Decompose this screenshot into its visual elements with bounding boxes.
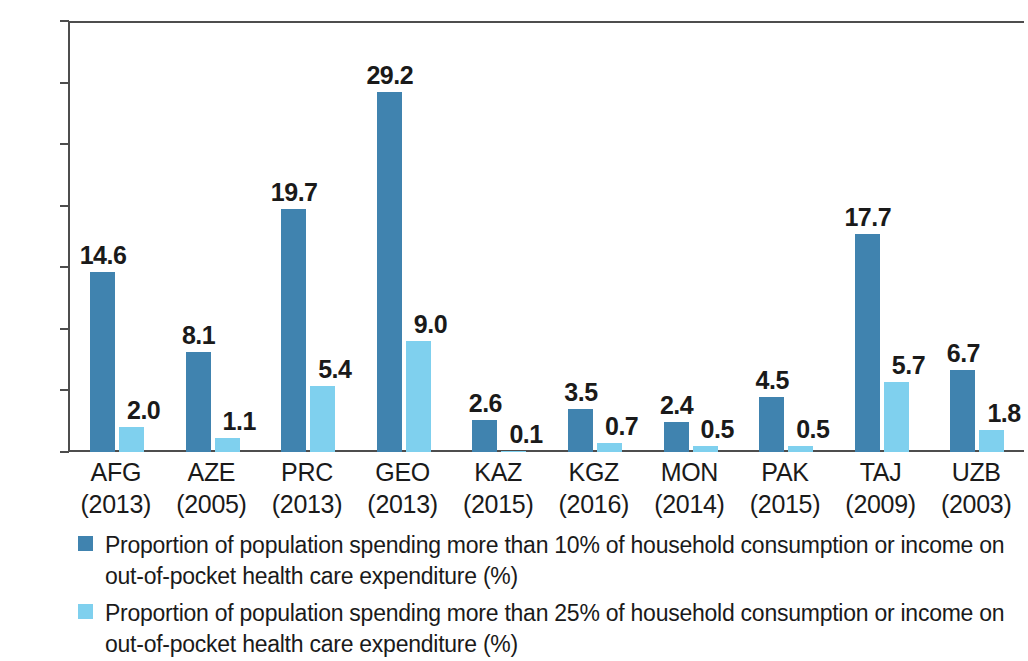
x-axis-category-label: KGZ(2016)	[544, 456, 644, 520]
x-axis-category-code: PAK	[735, 456, 835, 488]
bar-value-label: 8.1	[164, 321, 234, 350]
bar: 2.4	[664, 422, 689, 452]
bar: 8.1	[186, 352, 211, 452]
bar: 19.7	[281, 209, 306, 452]
bar: 0.7	[597, 443, 622, 452]
x-axis-category-year: (2014)	[639, 488, 739, 520]
x-axis-category-label: PRC(2013)	[257, 456, 357, 520]
x-axis-category-code: UZB	[926, 456, 1026, 488]
legend-label-series-2-line2: out-of-pocket health care expenditure (%…	[105, 631, 518, 657]
x-axis-category-year: (2016)	[544, 488, 644, 520]
bar-value-label: 1.8	[987, 399, 1028, 428]
bar-group: 2.60.1	[450, 21, 540, 452]
bar-group: 19.75.4	[259, 21, 349, 452]
bar: 1.8	[979, 430, 1004, 452]
x-axis-category-label: UZB(2003)	[926, 456, 1026, 520]
legend-swatch-icon-series-2	[78, 604, 93, 619]
x-axis-category-year: (2003)	[926, 488, 1026, 520]
x-axis-category-code: TAJ	[831, 456, 931, 488]
bar: 5.4	[310, 386, 335, 452]
x-axis-category-code: KGZ	[544, 456, 644, 488]
bar-group: 4.50.5	[737, 21, 827, 452]
legend-label-series-1-line2: out-of-pocket health care expenditure (%…	[105, 563, 518, 589]
bar-value-label: 17.7	[833, 203, 903, 232]
x-axis-category-label: AZE(2005)	[161, 456, 261, 520]
x-axis-category-code: PRC	[257, 456, 357, 488]
legend-label-series-1: Proportion of population spending more t…	[105, 530, 1004, 591]
x-axis-category-label: GEO(2013)	[353, 456, 453, 520]
x-axis-category-year: (2015)	[448, 488, 548, 520]
bar: 5.7	[884, 382, 909, 452]
bar-value-label: 6.7	[928, 339, 998, 368]
bar: 29.2	[377, 92, 402, 452]
y-axis: 0.05.010.015.020.025.030.035.0	[0, 0, 68, 473]
x-axis: AFG(2013)AZE(2005)PRC(2013)GEO(2013)KAZ(…	[68, 456, 1024, 522]
bar: 9.0	[406, 341, 431, 452]
bar-group: 8.11.1	[164, 21, 254, 452]
bar-value-label: 3.5	[546, 378, 616, 407]
x-axis-category-year: (2015)	[735, 488, 835, 520]
bar-group: 14.62.0	[68, 21, 158, 452]
x-axis-category-label: AFG(2013)	[66, 456, 166, 520]
bar-group: 3.50.7	[546, 21, 636, 452]
bar: 2.0	[119, 427, 144, 452]
bar-group: 29.29.0	[355, 21, 445, 452]
bar: 2.6	[472, 420, 497, 452]
bar-value-label: 2.4	[642, 391, 712, 420]
x-axis-category-year: (2005)	[161, 488, 261, 520]
bar: 0.5	[788, 446, 813, 452]
x-axis-category-code: AFG	[66, 456, 166, 488]
x-axis-category-label: KAZ(2015)	[448, 456, 548, 520]
bar: 0.5	[693, 446, 718, 452]
x-axis-category-year: (2013)	[353, 488, 453, 520]
bar-value-label: 2.6	[450, 389, 520, 418]
legend-label-series-2-line1: Proportion of population spending more t…	[105, 600, 1004, 626]
bar: 17.7	[855, 234, 880, 452]
x-axis-category-year: (2013)	[257, 488, 357, 520]
bar-value-label: 19.7	[259, 178, 329, 207]
x-axis-category-label: TAJ(2009)	[831, 456, 931, 520]
x-axis-category-code: GEO	[353, 456, 453, 488]
x-axis-category-label: PAK(2015)	[735, 456, 835, 520]
legend-item-series-2: Proportion of population spending more t…	[78, 598, 1023, 659]
x-axis-category-label: MON(2014)	[639, 456, 739, 520]
x-axis-category-code: KAZ	[448, 456, 548, 488]
legend-swatch-icon-series-1	[78, 536, 93, 551]
bars-layer: 14.62.08.11.119.75.429.29.02.60.13.50.72…	[68, 21, 1024, 452]
bar: 0.1	[501, 451, 526, 452]
legend-label-series-2: Proportion of population spending more t…	[105, 598, 1004, 659]
bar: 6.7	[950, 370, 975, 453]
bar: 3.5	[568, 409, 593, 452]
bar-group: 2.40.5	[642, 21, 732, 452]
legend-label-series-1-line1: Proportion of population spending more t…	[105, 532, 1004, 558]
legend-item-series-1: Proportion of population spending more t…	[78, 530, 1023, 591]
bar-group: 6.71.8	[928, 21, 1018, 452]
bar-value-label: 4.5	[737, 366, 807, 395]
bar-value-label: 14.6	[68, 241, 138, 270]
chart-legend: Proportion of population spending more t…	[78, 530, 1023, 661]
bar-value-label: 29.2	[355, 61, 425, 90]
x-axis-category-code: MON	[639, 456, 739, 488]
bar: 1.1	[215, 438, 240, 452]
bar-group: 17.75.7	[833, 21, 923, 452]
bar: 14.6	[90, 272, 115, 452]
x-axis-category-code: AZE	[161, 456, 261, 488]
bar: 4.5	[759, 397, 784, 452]
x-axis-category-year: (2013)	[66, 488, 166, 520]
x-axis-category-year: (2009)	[831, 488, 931, 520]
